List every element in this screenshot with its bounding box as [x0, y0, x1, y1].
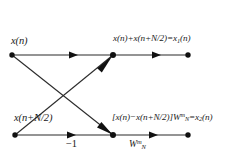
twiddle-base: W: [129, 138, 137, 149]
input-node-bottom[interactable]: [12, 132, 17, 137]
arrowhead-bottom-output: [149, 132, 158, 139]
gain-label-minus-one: −1: [66, 139, 77, 150]
output-bottom-expression: [x(n)−x(n+N/2)]W: [112, 112, 180, 122]
output-node-top[interactable]: [185, 52, 190, 57]
output-bottom-suffix: (n): [202, 112, 212, 122]
twiddle-factor-label: WmN: [129, 139, 146, 150]
twiddle-subscript: N: [142, 143, 146, 150]
output-top-expression: x(n)+x(n+N/2)=x: [113, 33, 177, 43]
junction-node-bottom[interactable]: [110, 132, 116, 138]
output-label-bottom: [x(n)−x(n+N/2)]WmN=x2(n): [112, 112, 213, 123]
output-bottom-equals: =x: [189, 112, 199, 122]
junction-node-top[interactable]: [110, 52, 116, 58]
arrowhead-cross-ascending: [97, 56, 112, 73]
output-top-suffix: (n): [180, 33, 190, 43]
arrowhead-top-output: [152, 52, 161, 59]
output-node-bottom[interactable]: [185, 132, 190, 137]
input-label-top: x(n): [11, 36, 28, 47]
input-node-top[interactable]: [9, 52, 14, 57]
figure-canvas: x(n) x(n+N/2) x(n)+x(n+N/2)=x1(n) [x(n)−…: [0, 0, 248, 162]
output-label-top: x(n)+x(n+N/2)=x1(n): [113, 34, 191, 44]
input-label-bottom: x(n+N/2): [14, 113, 52, 124]
signal-flow-graph: [0, 0, 248, 162]
arrowhead-top-input: [69, 52, 78, 59]
